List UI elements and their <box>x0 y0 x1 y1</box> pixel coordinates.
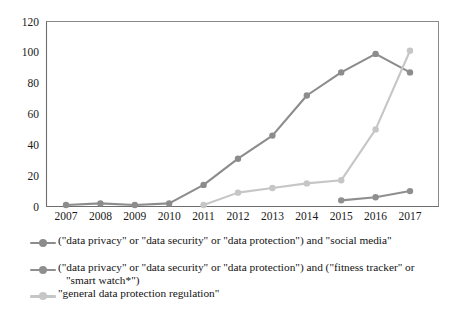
y-tick-80: 80 <box>28 77 40 89</box>
legend-item-gdpr[interactable]: "general data protection regulation" <box>30 287 446 303</box>
plot-area: 020406080100120 200720082009201020112012… <box>0 0 460 225</box>
y-tick-20: 20 <box>28 170 40 182</box>
data-point-s1-9 <box>372 51 378 57</box>
series-line-1 <box>66 54 410 205</box>
data-point-s1-4 <box>200 182 206 188</box>
legend-label-series1: ("data privacy" or "data security" or "d… <box>58 234 392 247</box>
x-tick-2014: 2014 <box>295 210 318 222</box>
data-point-s1-0 <box>63 202 69 208</box>
data-point-s2-1 <box>372 194 378 200</box>
legend-label-series1-line1: ("data privacy" or "data security" or "d… <box>58 234 392 246</box>
data-point-s3-4 <box>338 177 344 183</box>
data-point-s3-2 <box>269 185 275 191</box>
legend-label-series2-line2: "smart watch*") <box>58 274 415 287</box>
legend-item-social-media[interactable]: ("data privacy" or "data security" or "d… <box>30 234 446 250</box>
legend-marker-series3 <box>30 289 56 303</box>
x-tick-2012: 2012 <box>227 210 250 222</box>
x-tick-2017: 2017 <box>399 210 422 222</box>
y-tick-120: 120 <box>22 16 40 28</box>
legend-item-fitness-tracker[interactable]: ("data privacy" or "data security" or "d… <box>30 261 446 287</box>
y-tick-0: 0 <box>33 201 39 213</box>
chart-legend: ("data privacy" or "data security" or "d… <box>0 228 460 316</box>
legend-marker-series2 <box>30 263 56 277</box>
data-point-s1-10 <box>407 69 413 75</box>
y-axis-tick-labels: 020406080100120 <box>22 16 40 213</box>
x-tick-2013: 2013 <box>261 210 284 222</box>
data-point-s2-2 <box>407 188 413 194</box>
data-point-s1-6 <box>269 132 275 138</box>
y-tick-40: 40 <box>28 139 40 151</box>
data-point-s1-2 <box>132 202 138 208</box>
y-tick-60: 60 <box>28 108 40 120</box>
x-axis-tick-labels: 2007200820092010201120122013201420152016… <box>55 210 422 222</box>
legend-label-series3-line1: "general data protection regulation" <box>58 287 219 299</box>
y-tick-100: 100 <box>22 46 40 58</box>
data-point-s2-0 <box>338 197 344 203</box>
data-point-s3-1 <box>235 189 241 195</box>
x-tick-2007: 2007 <box>55 210 78 222</box>
legend-marker-series1 <box>30 236 56 250</box>
x-tick-2011: 2011 <box>192 210 215 222</box>
plot-frame <box>47 22 439 207</box>
x-tick-2016: 2016 <box>364 210 387 222</box>
data-point-s3-0 <box>200 202 206 208</box>
data-point-s1-1 <box>97 200 103 206</box>
data-point-s3-3 <box>304 180 310 186</box>
data-point-s1-3 <box>166 200 172 206</box>
x-tick-2008: 2008 <box>89 210 112 222</box>
legend-label-series3: "general data protection regulation" <box>58 287 219 300</box>
series-layer <box>63 48 413 209</box>
data-point-s1-5 <box>235 156 241 162</box>
data-point-s3-5 <box>372 126 378 132</box>
legend-label-series2-line1: ("data privacy" or "data security" or "d… <box>58 261 415 273</box>
x-tick-2009: 2009 <box>123 210 146 222</box>
x-tick-2015: 2015 <box>330 210 353 222</box>
line-chart-svg: 020406080100120 200720082009201020112012… <box>0 0 460 225</box>
legend-label-series2: ("data privacy" or "data security" or "d… <box>58 261 415 287</box>
data-point-s3-6 <box>407 48 413 54</box>
data-point-s1-8 <box>338 69 344 75</box>
x-tick-2010: 2010 <box>158 210 181 222</box>
chart-container: 020406080100120 200720082009201020112012… <box>0 0 460 316</box>
data-point-s1-7 <box>304 92 310 98</box>
